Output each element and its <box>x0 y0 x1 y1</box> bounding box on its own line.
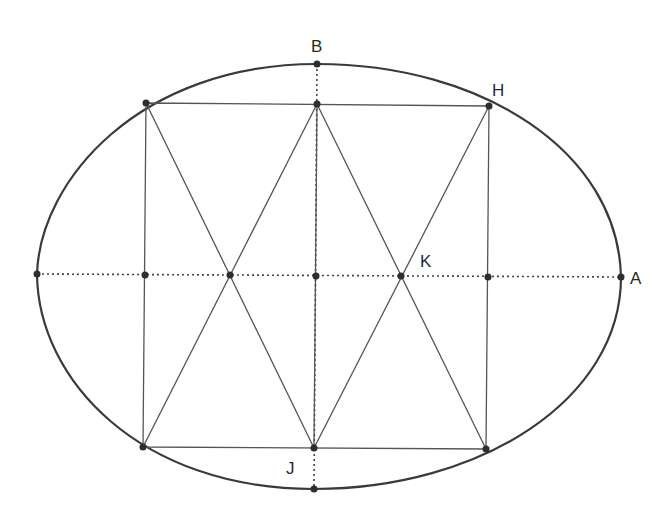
label-h: H <box>492 81 504 100</box>
point-center <box>313 273 320 280</box>
point-a <box>618 274 625 281</box>
horizontal-axis <box>37 274 621 277</box>
label-a: A <box>630 269 642 288</box>
point-bottom <box>311 486 318 493</box>
point-top-left <box>143 100 150 107</box>
label-k: K <box>420 252 432 271</box>
point-k <box>398 273 405 280</box>
point-bottom-left <box>140 444 147 451</box>
point-bottom-right <box>483 446 490 453</box>
point-h <box>486 103 493 110</box>
diagram-canvas: B H K A J <box>0 0 650 515</box>
point-left-end <box>34 271 41 278</box>
point-cross-left <box>227 272 234 279</box>
label-j: J <box>286 459 295 478</box>
point-mid-left <box>142 272 149 279</box>
point-bottom-mid <box>311 445 318 452</box>
point-b <box>314 61 321 68</box>
point-mid-right <box>485 274 492 281</box>
point-top-mid <box>314 101 321 108</box>
label-b: B <box>311 37 322 56</box>
